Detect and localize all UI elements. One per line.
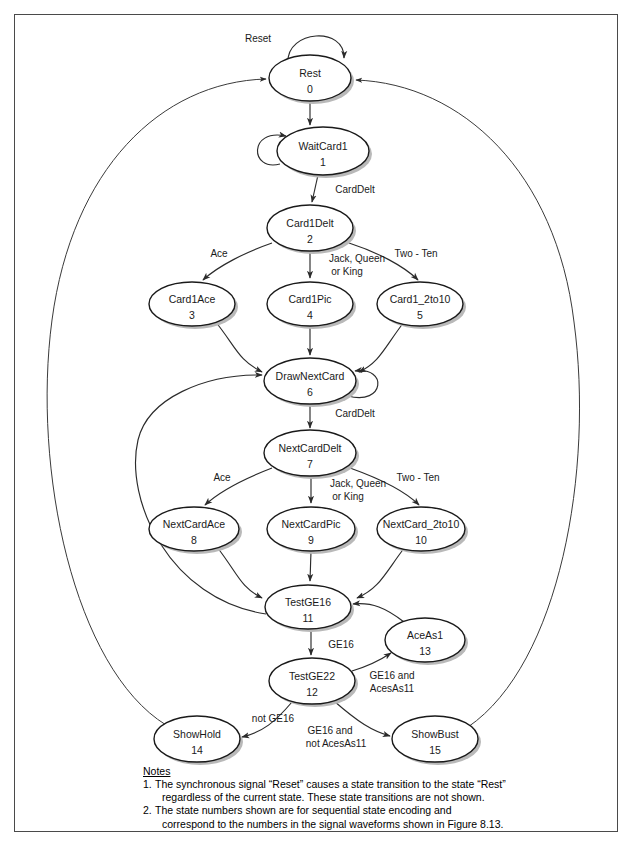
node-label: Rest	[299, 67, 321, 79]
node-label: Card1_2to10	[390, 293, 451, 305]
edge-card1ace-to-drawnextcard	[215, 321, 262, 372]
node-number: 10	[415, 534, 427, 546]
edge-label-twoten2: Two - Ten	[396, 472, 439, 483]
edge-card1-2to10-to-drawnextcard	[359, 322, 404, 372]
node-number: 0	[307, 83, 313, 95]
edge-label-ge16-notaces-b: not AcesAs11	[306, 738, 367, 749]
state-node-card1delt[interactable]: Card1Delt2	[267, 205, 356, 254]
edge-label-reset: Reset	[245, 33, 271, 44]
node-number: 6	[307, 386, 313, 398]
state-node-testge16[interactable]: TestGE1611	[265, 585, 354, 632]
edge-waitcard1-to-card1delt	[312, 175, 318, 202]
node-label: ShowHold	[173, 728, 221, 740]
edge-label-jackqueen1-b: or King	[331, 266, 363, 277]
edge-label-jackqueen2-b: or King	[332, 491, 364, 502]
node-label: DrawNextCard	[276, 370, 345, 382]
node-number: 5	[417, 309, 423, 321]
state-diagram: Rest0WaitCard11Card1Delt2Card1Ace3Card1P…	[0, 0, 633, 851]
edge-testge16-to-drawnextcard-return	[136, 375, 266, 614]
state-node-nextcardpic[interactable]: NextCardPic9	[267, 507, 358, 554]
node-number: 9	[308, 534, 314, 546]
edge-label-twoten1: Two - Ten	[394, 248, 437, 259]
edge-label-ge16-aces-a: GE16 and	[369, 670, 414, 681]
node-number: 2	[307, 233, 313, 245]
note-line1: The state numbers shown are for sequenti…	[155, 804, 452, 816]
state-node-showhold[interactable]: ShowHold14	[154, 716, 243, 765]
edge-label-jackqueen2-a: Jack, Queen	[330, 478, 386, 489]
state-node-drawnextcard[interactable]: DrawNextCard6	[264, 358, 359, 407]
node-label: WaitCard1	[298, 140, 347, 152]
nodes-group: Rest0WaitCard11Card1Delt2Card1Ace3Card1P…	[149, 55, 481, 765]
note-number: 1.	[143, 778, 152, 791]
state-node-testge22[interactable]: TestGE2212	[269, 658, 358, 707]
state-node-card1pic[interactable]: Card1Pic4	[267, 282, 356, 329]
edge-label-carddelt1: CardDelt	[335, 184, 375, 195]
node-label: AceAs1	[407, 629, 443, 641]
note-line2: regardless of the current state. These s…	[155, 791, 613, 804]
note-line2: correspond to the numbers in the signal …	[155, 818, 613, 831]
node-number: 13	[419, 645, 431, 657]
state-node-nextcarddelt[interactable]: NextCardDelt7	[264, 430, 359, 479]
edge-label-ace1: Ace	[210, 248, 228, 259]
edge-label-carddelt2: CardDelt	[335, 408, 375, 419]
node-label: Card1Delt	[286, 217, 333, 229]
edge-nextcard-2to10-to-testge16	[357, 547, 405, 598]
notes-list: 1. The synchronous signal “Reset” causes…	[143, 778, 613, 831]
node-label: TestGE22	[289, 670, 335, 682]
edge-nextcardace-to-testge16	[217, 547, 262, 598]
notes-heading: Notes	[143, 765, 613, 778]
node-label: NextCardAce	[163, 518, 226, 530]
note-number: 2.	[143, 804, 152, 817]
node-number: 1	[320, 156, 326, 168]
figure-page: Rest0WaitCard11Card1Delt2Card1Ace3Card1P…	[0, 0, 633, 851]
note-item: 1. The synchronous signal “Reset” causes…	[143, 778, 613, 804]
node-label: NextCardDelt	[278, 442, 341, 454]
edge-label-ge16-notaces-a: GE16 and	[307, 725, 352, 736]
state-node-waitcard1[interactable]: WaitCard11	[277, 127, 372, 178]
node-number: 14	[191, 744, 203, 756]
node-number: 7	[307, 458, 313, 470]
edge-label-ace2: Ace	[213, 472, 231, 483]
node-label: Card1Ace	[169, 293, 216, 305]
node-label: ShowBust	[411, 728, 458, 740]
edge-label-notge16: not GE16	[252, 713, 295, 724]
edge-label-ge16-aces-b: AcesAs11	[370, 683, 415, 694]
note-item: 2. The state numbers shown are for seque…	[143, 804, 613, 830]
state-node-card1ace[interactable]: Card1Ace3	[149, 282, 238, 329]
state-node-aceas1[interactable]: AceAs113	[385, 618, 468, 665]
node-number: 11	[303, 612, 314, 624]
state-node-showbust[interactable]: ShowBust15	[392, 716, 481, 765]
edge-aceas1-to-testge16	[353, 604, 404, 622]
state-node-nextcard_2to10[interactable]: NextCard_2to1010	[377, 507, 468, 554]
node-number: 4	[307, 309, 313, 321]
node-number: 3	[189, 309, 195, 321]
edge-label-ge16: GE16	[328, 639, 354, 650]
edge-nextcardpic-to-testge16	[310, 551, 311, 581]
node-number: 12	[306, 686, 318, 698]
node-number: 15	[429, 744, 441, 756]
node-label: Card1Pic	[288, 293, 331, 305]
edge-label-jackqueen1-a: Jack, Queen	[329, 253, 385, 264]
node-number: 8	[191, 534, 197, 546]
node-label: NextCardPic	[282, 518, 341, 530]
edge-showhold-to-rest-return	[47, 79, 266, 725]
notes-block: Notes 1. The synchronous signal “Reset” …	[143, 765, 613, 831]
state-node-card1_2to10[interactable]: Card1_2to105	[377, 282, 466, 329]
node-label: TestGE16	[285, 596, 331, 608]
note-line1: The synchronous signal “Reset” causes a …	[155, 778, 506, 790]
edge-testge22-to-aceas1	[352, 653, 391, 671]
node-label: NextCard_2to10	[383, 518, 460, 530]
state-node-rest[interactable]: Rest0	[269, 55, 354, 104]
